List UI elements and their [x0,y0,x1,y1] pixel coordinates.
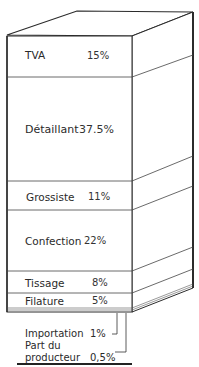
leader-importation [112,313,117,334]
label-part-du: Part du [25,340,61,353]
segment-value-confection: 22% [84,236,106,246]
label-importation: Importation [25,328,83,341]
value-producteur: 0,5% [90,352,115,365]
segment-value-grossiste: 11% [88,192,110,202]
segment-label-filature: Filature [25,296,64,307]
segment-value-filature: 5% [92,296,108,306]
segment-label-detaillant: Détaillant [25,124,79,135]
segment-value-detaillant: 37.5% [79,124,114,135]
segment-value-tissage: 8% [92,278,108,288]
value-importation: 1% [90,328,106,341]
label-producteur: producteur [25,352,80,365]
segment-value-tva: 15% [87,51,109,61]
segment-label-confection: Confection [25,236,81,247]
segment-label-grossiste: Grossiste [26,192,75,203]
segment-label-tissage: Tissage [25,278,65,289]
segment-label-tva: TVA [25,50,45,61]
